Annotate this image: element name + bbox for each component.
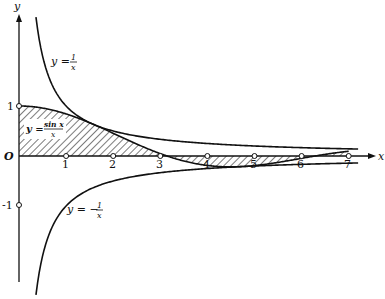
curve-minus-one-over-x	[36, 163, 358, 295]
x-tick-label: 1	[62, 158, 69, 171]
y-tick-label-1: 1	[7, 100, 14, 113]
label-denominator: x	[97, 211, 102, 220]
x-tick-label: 6	[297, 158, 304, 171]
sinc-diagram: y x O 1 -1 1 2 3 4 5 6 7 y = 1 x y = sin…	[0, 0, 385, 299]
x-tick-label: 4	[203, 158, 210, 171]
y-axis-arrow-icon	[16, 14, 22, 22]
y-tick-minus-1	[17, 203, 22, 208]
label-lhs: y =	[50, 55, 70, 68]
x-axis-arrow-icon	[368, 153, 376, 159]
x-tick-label: 2	[109, 158, 116, 171]
x-tick-label: 5	[250, 158, 257, 171]
y-tick-label-minus-1: -1	[2, 199, 13, 212]
x-axis-label: x	[378, 150, 385, 163]
label-numerator: sin x	[44, 120, 64, 129]
label-numerator: 1	[71, 53, 76, 62]
label-denominator: x	[71, 63, 76, 72]
label-minus-one-over-x: y = − 1 x	[66, 201, 103, 220]
y-axis-label: y	[13, 0, 21, 13]
x-tick-label: 3	[156, 158, 163, 171]
label-one-over-x: y = 1 x	[50, 53, 77, 72]
x-tick-label: 7	[344, 158, 351, 171]
label-lhs: y = −	[66, 203, 99, 216]
y-tick-1	[17, 104, 22, 109]
label-sinc: y = sin x x	[24, 119, 66, 139]
origin-label: O	[4, 150, 14, 163]
label-numerator: 1	[97, 201, 102, 210]
label-lhs: y =	[25, 123, 44, 134]
